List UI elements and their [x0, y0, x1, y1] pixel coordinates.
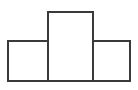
right-rectangle — [93, 41, 130, 81]
composite-rectangle-figure — [0, 0, 138, 90]
figure-canvas — [0, 0, 138, 90]
center-rectangle — [48, 12, 93, 81]
left-rectangle — [8, 41, 48, 81]
